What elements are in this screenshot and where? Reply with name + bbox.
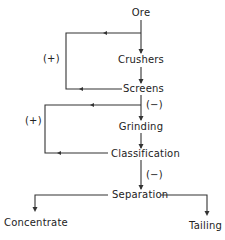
label-grinding-loop-sign: (+) [25,115,42,127]
arrow-left-icon [57,151,61,155]
label-crusher-loop-sign: (+) [43,53,60,65]
arrow-down-icon [33,207,38,212]
node-separation: Separation [112,189,168,201]
node-screens: Screens [123,83,164,95]
node-tailing: Tailing [189,220,222,232]
node-grinding: Grinding [119,121,163,133]
arrow-left-icon [103,31,107,35]
arrow-left-icon [90,103,94,107]
node-concentrate: Concentrate [4,217,68,229]
arrow-down-icon [205,211,210,216]
label-screens-grinding-sign: (−) [146,99,163,111]
node-ore: Ore [132,7,151,19]
label-classification-separation-sign: (−) [146,169,163,181]
arrow-left-icon [79,87,83,91]
node-classification: Classification [111,148,180,160]
node-crushers: Crushers [118,54,164,66]
ore-processing-flow-diagram: Ore Crushers Screens Grinding Classifica… [0,0,225,240]
edge-separation-concentrate [35,195,108,210]
